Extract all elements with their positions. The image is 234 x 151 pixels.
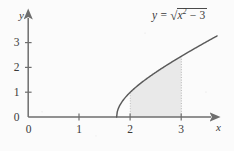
equation-label: y = √x2 − 3 bbox=[152, 8, 207, 22]
radical-sign: √ bbox=[170, 8, 177, 23]
y-tick-label-1: 1 bbox=[12, 87, 21, 99]
x-tick-label-3: 3 bbox=[177, 124, 186, 136]
equation-equals: = bbox=[160, 9, 167, 21]
equation-lhs: y bbox=[152, 9, 157, 21]
x-tick-label-0: 0 bbox=[24, 124, 33, 136]
shaded-area-region bbox=[130, 56, 181, 117]
radicand-rest: − 3 bbox=[190, 9, 206, 21]
math-figure: 0 1 2 3 0 1 2 3 y x y = √x2 − 3 bbox=[0, 0, 234, 151]
x-tick-label-1: 1 bbox=[75, 124, 84, 136]
x-axis-label: x bbox=[216, 122, 221, 133]
y-axis-label: y bbox=[19, 10, 24, 21]
y-tick-label-0: 0 bbox=[12, 112, 21, 124]
y-tick-label-2: 2 bbox=[12, 62, 21, 74]
radicand: x2 − 3 bbox=[177, 8, 207, 21]
plot-svg bbox=[0, 0, 234, 151]
radicand-exponent: 2 bbox=[183, 7, 187, 16]
x-tick-label-2: 2 bbox=[126, 124, 135, 136]
y-tick-label-3: 3 bbox=[12, 37, 21, 49]
